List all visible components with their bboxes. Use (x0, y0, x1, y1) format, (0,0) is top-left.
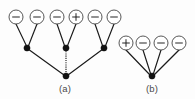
figure-container: (a)(b) (0, 0, 195, 99)
captions-layer: (a)(b) (59, 83, 158, 94)
tree-edge-solid (105, 24, 114, 47)
internal-node (101, 45, 107, 51)
internal-node (24, 45, 30, 51)
internal-node (63, 45, 69, 51)
tree-edge-solid (154, 50, 179, 75)
internal-nodes-layer (24, 45, 155, 79)
leaf-node-minus (154, 36, 168, 50)
leaf-node-minus (88, 10, 102, 24)
leaf-node-plus (119, 36, 133, 50)
leaf-node-minus (172, 36, 186, 50)
panel-caption: (b) (146, 83, 158, 94)
tree-edge-solid (57, 24, 65, 47)
tree-edge-solid (16, 24, 27, 47)
internal-node (149, 73, 155, 79)
tree-edge-solid (95, 24, 103, 47)
tree-edge-solid (68, 49, 103, 75)
leaf-node-minus (9, 10, 23, 24)
tree-edge-solid (67, 24, 76, 47)
edges-layer (16, 24, 179, 75)
internal-node (63, 73, 69, 79)
tree-edge-solid (28, 49, 64, 75)
leaf-node-minus (30, 10, 44, 24)
panel-caption: (a) (59, 83, 71, 94)
leaf-node-minus (50, 10, 64, 24)
tree-diagram-figure: (a)(b) (0, 0, 195, 99)
leaf-node-minus (107, 10, 121, 24)
leaf-node-minus (136, 36, 150, 50)
tree-edge-solid (28, 24, 37, 47)
leaf-node-plus (69, 10, 83, 24)
